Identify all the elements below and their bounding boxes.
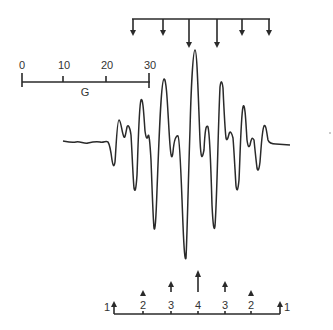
arrow-up-icon xyxy=(168,281,174,287)
top-stick-line xyxy=(239,19,245,36)
intensity-label: 4 xyxy=(195,299,201,311)
scan-speck xyxy=(329,132,331,134)
intensity-label: 1 xyxy=(104,301,110,313)
top-stick-diagram xyxy=(130,19,272,48)
bottom-stick-line xyxy=(111,301,117,314)
scale-label-0: 0 xyxy=(19,59,25,71)
bottom-stick-line xyxy=(222,281,228,292)
top-stick-line xyxy=(214,19,220,48)
top-stick-line xyxy=(130,19,136,36)
top-stick-line xyxy=(160,19,166,36)
intensity-label: 3 xyxy=(168,299,174,311)
bottom-stick-line xyxy=(140,290,146,296)
arrow-up-icon xyxy=(222,281,228,287)
arrow-up-icon xyxy=(111,301,117,307)
arrow-up-icon xyxy=(248,290,254,296)
arrow-down-icon xyxy=(130,30,136,36)
arrow-down-icon xyxy=(186,42,192,48)
scale-label-10: 10 xyxy=(58,59,70,71)
arrow-down-icon xyxy=(239,30,245,36)
arrow-down-icon xyxy=(266,30,272,36)
arrow-up-icon xyxy=(277,301,283,307)
arrow-down-icon xyxy=(214,42,220,48)
scale-label-20: 20 xyxy=(101,59,113,71)
scale-unit-label: G xyxy=(81,86,90,98)
bottom-stick-line xyxy=(195,270,201,292)
bottom-stick-line xyxy=(248,290,254,296)
intensity-label: 2 xyxy=(140,299,146,311)
bottom-stick-line xyxy=(277,301,283,314)
intensity-label: 1 xyxy=(284,301,290,313)
bottom-stick-line xyxy=(168,281,174,292)
top-stick-line xyxy=(266,19,272,36)
epr-spectrum-figure: 0 10 20 30 G 1 xyxy=(0,0,333,330)
intensity-label: 3 xyxy=(222,299,228,311)
arrow-up-icon xyxy=(195,270,201,277)
arrow-up-icon xyxy=(140,290,146,296)
arrow-down-icon xyxy=(160,30,166,36)
intensity-label: 2 xyxy=(248,299,254,311)
top-stick-line xyxy=(186,19,192,48)
scale-label-30: 30 xyxy=(144,59,156,71)
